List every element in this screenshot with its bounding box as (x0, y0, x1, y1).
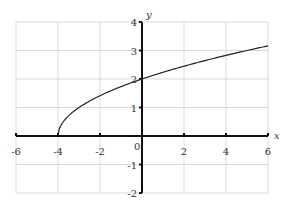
x-tick-label: -4 (53, 146, 63, 157)
x-tick-label: 2 (181, 146, 187, 157)
y-tick-label: 4 (131, 17, 137, 28)
x-tick-label: 6 (265, 146, 271, 157)
x-axis-label: x (274, 130, 280, 141)
x-tick-label: 4 (223, 146, 229, 157)
y-tick-label: 2 (131, 74, 137, 85)
y-tick-label: -1 (127, 160, 137, 171)
y-tick-label: 1 (131, 103, 137, 114)
x-tick-label: -6 (11, 146, 21, 157)
y-tick-label: 3 (131, 46, 137, 57)
function-curve (58, 46, 268, 136)
y-axis-label: y (145, 9, 152, 20)
chart: -6-4-2246-2-11234 x y 0 (0, 0, 287, 205)
y-tick-label: -2 (127, 188, 137, 199)
x-tick-label: -2 (95, 146, 105, 157)
origin-label: 0 (134, 141, 140, 152)
